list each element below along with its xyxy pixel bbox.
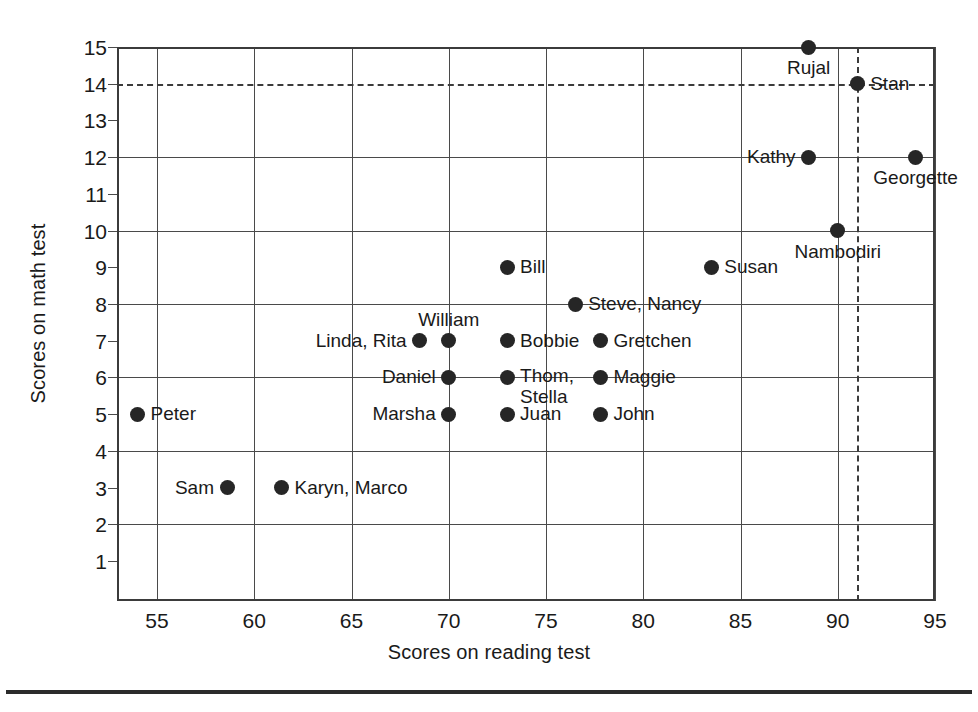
data-point[interactable] bbox=[441, 370, 456, 385]
y-tick-mark-14 bbox=[108, 84, 117, 85]
y-tick-mark-7 bbox=[108, 341, 117, 342]
x-tick-label-55: 55 bbox=[145, 610, 168, 631]
data-point-label: Karyn, Marco bbox=[294, 478, 407, 498]
y-tick-label-12: 12 bbox=[67, 147, 107, 168]
data-point-label: Rujal bbox=[787, 58, 830, 78]
data-point-label: Nambodiri bbox=[794, 242, 881, 262]
y-tick-mark-9 bbox=[108, 267, 117, 268]
data-point[interactable] bbox=[130, 407, 145, 422]
y-tick-label-10: 10 bbox=[67, 220, 107, 241]
axis-right bbox=[933, 47, 935, 601]
data-point-label: Gretchen bbox=[613, 331, 691, 351]
x-tick-label-65: 65 bbox=[340, 610, 363, 631]
data-point-label: Kathy bbox=[747, 147, 796, 167]
x-tick-label-90: 90 bbox=[826, 610, 849, 631]
data-point-label: Steve, Nancy bbox=[588, 294, 701, 314]
x-tick-label-70: 70 bbox=[437, 610, 460, 631]
gridline-y-2 bbox=[117, 524, 935, 525]
data-point-label: Linda, Rita bbox=[316, 331, 407, 351]
data-point-label: Juan bbox=[520, 404, 561, 424]
data-point[interactable] bbox=[500, 260, 515, 275]
data-point[interactable] bbox=[704, 260, 719, 275]
y-tick-mark-4 bbox=[108, 451, 117, 452]
data-point[interactable] bbox=[830, 223, 845, 238]
reference-line-x-91 bbox=[857, 47, 859, 601]
data-point[interactable] bbox=[908, 150, 923, 165]
gridline-y-10 bbox=[117, 231, 935, 232]
x-tick-label-80: 80 bbox=[632, 610, 655, 631]
gridline-x-85 bbox=[741, 47, 742, 601]
y-tick-mark-2 bbox=[108, 524, 117, 525]
data-point-label: Bobbie bbox=[520, 331, 579, 351]
data-point-label: Bill bbox=[520, 257, 545, 277]
y-tick-label-3: 3 bbox=[67, 477, 107, 498]
gridline-x-55 bbox=[157, 47, 158, 601]
gridline-x-60 bbox=[254, 47, 255, 601]
gridline-x-65 bbox=[352, 47, 353, 601]
y-tick-mark-1 bbox=[108, 561, 117, 562]
y-tick-mark-12 bbox=[108, 157, 117, 158]
data-point[interactable] bbox=[500, 333, 515, 348]
data-point[interactable] bbox=[593, 370, 608, 385]
data-point-label: Daniel bbox=[382, 367, 436, 387]
y-tick-label-13: 13 bbox=[67, 110, 107, 131]
x-axis-title: Scores on reading test bbox=[0, 641, 978, 664]
gridline-y-4 bbox=[117, 451, 935, 452]
x-tick-label-75: 75 bbox=[534, 610, 557, 631]
gridline-x-75 bbox=[546, 47, 547, 601]
gridline-x-90 bbox=[838, 47, 839, 601]
y-tick-label-5: 5 bbox=[67, 404, 107, 425]
gridline-x-80 bbox=[643, 47, 644, 601]
y-tick-mark-13 bbox=[108, 120, 117, 121]
data-point[interactable] bbox=[500, 370, 515, 385]
y-tick-label-7: 7 bbox=[67, 330, 107, 351]
data-point[interactable] bbox=[801, 40, 816, 55]
y-tick-mark-3 bbox=[108, 488, 117, 489]
gridline-x-95 bbox=[935, 47, 936, 601]
reference-line-y-14 bbox=[117, 84, 935, 86]
data-point-label: William bbox=[418, 310, 479, 330]
y-tick-label-9: 9 bbox=[67, 257, 107, 278]
y-tick-mark-10 bbox=[108, 231, 117, 232]
data-point-label: Thom, Stella bbox=[520, 365, 574, 407]
x-tick-label-85: 85 bbox=[729, 610, 752, 631]
data-point[interactable] bbox=[274, 480, 289, 495]
data-point[interactable] bbox=[801, 150, 816, 165]
y-tick-mark-6 bbox=[108, 377, 117, 378]
data-point[interactable] bbox=[500, 407, 515, 422]
y-tick-mark-15 bbox=[108, 47, 117, 48]
y-tick-mark-5 bbox=[108, 414, 117, 415]
data-point[interactable] bbox=[220, 480, 235, 495]
y-tick-label-6: 6 bbox=[67, 367, 107, 388]
x-tick-label-60: 60 bbox=[243, 610, 266, 631]
y-tick-label-1: 1 bbox=[67, 551, 107, 572]
y-tick-mark-11 bbox=[108, 194, 117, 195]
data-point-label: Sam bbox=[175, 478, 214, 498]
data-point-label: John bbox=[613, 404, 654, 424]
y-tick-label-2: 2 bbox=[67, 514, 107, 535]
data-point[interactable] bbox=[593, 333, 608, 348]
data-point[interactable] bbox=[412, 333, 427, 348]
plot-area: 123456789101112131415 556065707580859095… bbox=[117, 47, 935, 601]
data-point[interactable] bbox=[441, 333, 456, 348]
data-point-label: Maggie bbox=[613, 367, 675, 387]
x-tick-label-95: 95 bbox=[923, 610, 946, 631]
data-point-label: Marsha bbox=[372, 404, 435, 424]
y-tick-label-4: 4 bbox=[67, 440, 107, 461]
y-tick-label-14: 14 bbox=[67, 73, 107, 94]
data-point-label: Stan bbox=[870, 74, 909, 94]
data-point[interactable] bbox=[593, 407, 608, 422]
data-point[interactable] bbox=[568, 297, 583, 312]
axis-left bbox=[117, 47, 119, 601]
data-point-label: Georgette bbox=[873, 168, 958, 188]
y-tick-label-11: 11 bbox=[67, 183, 107, 204]
y-tick-label-15: 15 bbox=[67, 37, 107, 58]
data-point[interactable] bbox=[850, 76, 865, 91]
y-tick-mark-8 bbox=[108, 304, 117, 305]
axis-bottom bbox=[117, 599, 935, 601]
scatter-plot-figure: Scores on math test Scores on reading te… bbox=[0, 0, 978, 712]
bottom-rule bbox=[6, 690, 972, 694]
gridline-y-8 bbox=[117, 304, 935, 305]
data-point[interactable] bbox=[441, 407, 456, 422]
y-tick-label-8: 8 bbox=[67, 294, 107, 315]
